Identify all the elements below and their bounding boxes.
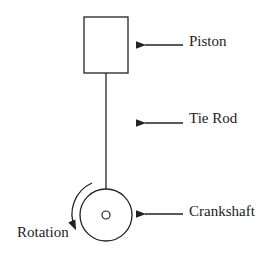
rotation-label: Rotation bbox=[17, 225, 69, 240]
crankshaft-shape bbox=[80, 189, 132, 241]
crankshaft-hub bbox=[102, 211, 110, 219]
tie-rod-label: Tie Rod bbox=[189, 111, 237, 126]
engine-diagram bbox=[0, 0, 275, 260]
piston-label: Piston bbox=[189, 34, 227, 49]
crankshaft-label: Crankshaft bbox=[189, 204, 255, 219]
piston-shape bbox=[84, 17, 128, 73]
